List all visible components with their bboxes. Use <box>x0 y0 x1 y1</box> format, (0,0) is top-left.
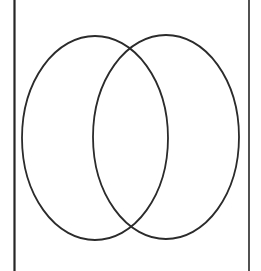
diagram-canvas <box>0 0 261 271</box>
diagram-figure <box>0 0 261 271</box>
diagram-background <box>0 0 261 271</box>
